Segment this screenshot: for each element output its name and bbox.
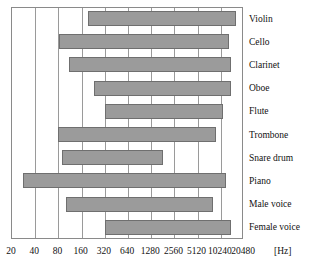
x-tick-label: 20480 [231, 246, 255, 256]
bar [105, 104, 223, 119]
bar-row [12, 101, 242, 124]
category-label: Clarinet [249, 60, 280, 70]
x-tick-label: 20 [6, 246, 16, 256]
bar-row [12, 217, 242, 240]
plot-area [11, 7, 243, 239]
bar [23, 173, 226, 188]
category-label: Male voice [249, 199, 291, 209]
category-label: Flute [249, 106, 269, 116]
bar-row [12, 8, 242, 31]
x-tick-label: 160 [73, 246, 87, 256]
category-label: Trombone [249, 130, 288, 140]
bar-row [12, 124, 242, 147]
x-tick-label: 320 [97, 246, 111, 256]
frequency-range-chart: ViolinCelloClarinetOboeFluteTromboneSnar… [0, 0, 313, 269]
bar-row [12, 54, 242, 77]
category-label: Snare drum [249, 153, 293, 163]
category-label: Cello [249, 37, 270, 47]
bar-row [12, 170, 242, 193]
bar-row [12, 78, 242, 101]
bar-row [12, 147, 242, 170]
bar [62, 150, 162, 165]
x-tick-label: 640 [120, 246, 134, 256]
bar [59, 34, 229, 49]
category-label: Piano [249, 176, 271, 186]
x-tick-label: 1280 [141, 246, 160, 256]
bar-row [12, 194, 242, 217]
bar [69, 57, 231, 72]
bar [105, 220, 231, 235]
bar [58, 127, 216, 142]
x-tick-label: 40 [29, 246, 39, 256]
x-tick-label: 5120 [187, 246, 206, 256]
x-tick-label: 2560 [164, 246, 183, 256]
bar [66, 197, 213, 212]
bar [94, 81, 232, 96]
category-label: Violin [249, 14, 273, 24]
x-tick-label: 80 [53, 246, 63, 256]
category-label: Female voice [249, 222, 300, 232]
x-tick-label: 10240 [208, 246, 232, 256]
category-label: Oboe [249, 83, 270, 93]
x-axis-unit-label: [Hz] [274, 246, 291, 256]
bar [88, 11, 235, 26]
bar-row [12, 31, 242, 54]
